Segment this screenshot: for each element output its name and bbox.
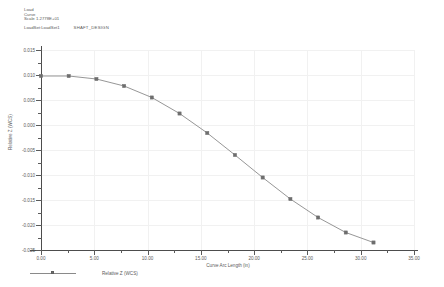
- series-data-point: [39, 74, 42, 77]
- legend-label-relative-z: Relative Z (WCS): [102, 271, 138, 276]
- series-data-point: [95, 77, 98, 80]
- series-data-point: [372, 241, 375, 244]
- series-data-point: [178, 112, 181, 115]
- legend-swatch-relative-z: [30, 270, 76, 277]
- legend: Relative Z (WCS): [30, 270, 138, 277]
- series-data-point: [67, 74, 70, 77]
- series-layer: [0, 0, 444, 287]
- square-marker-icon: [51, 271, 54, 274]
- series-data-point: [289, 197, 292, 200]
- series-data-point: [150, 96, 153, 99]
- series-data-point: [261, 176, 264, 179]
- series-data-point: [233, 153, 236, 156]
- series-data-point: [123, 84, 126, 87]
- series-line-relative-z: [41, 76, 374, 243]
- series-data-point: [206, 131, 209, 134]
- series-data-point: [316, 216, 319, 219]
- series-data-point: [344, 231, 347, 234]
